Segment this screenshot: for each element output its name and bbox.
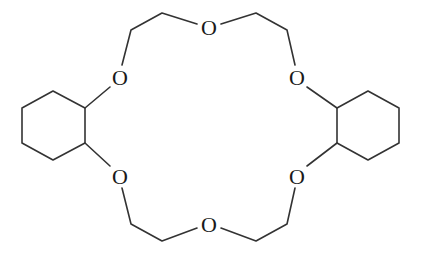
- oxygen-atom-lower-left: O: [112, 164, 128, 189]
- oxygen-atom-lower-right: O: [289, 164, 305, 189]
- left-cyclohexane-ring: [22, 91, 85, 160]
- bond-chain-lower-left: [122, 188, 197, 241]
- oxygen-atom-upper-right: O: [289, 65, 305, 90]
- crown-ether-diagram: O O O O O O: [0, 0, 422, 255]
- oxygen-atom-upper-left: O: [112, 65, 128, 90]
- bonds: [85, 13, 337, 241]
- atoms: O O O O O O: [112, 15, 305, 237]
- bond-ring-to-o-lower-left: [85, 143, 110, 166]
- bond-o-lower-right-to-ring: [307, 143, 337, 166]
- bond-chain-upper-right: [221, 13, 295, 65]
- rings: [22, 91, 399, 160]
- oxygen-atom-top: O: [201, 15, 217, 40]
- right-cyclohexane-ring: [337, 91, 399, 160]
- oxygen-atom-bottom: O: [201, 212, 217, 237]
- bond-chain-lower-right: [221, 188, 295, 241]
- bond-chain-upper-left: [122, 13, 197, 65]
- bond-ring-to-o-upper-left: [85, 87, 110, 108]
- bond-o-upper-right-to-ring: [307, 87, 337, 108]
